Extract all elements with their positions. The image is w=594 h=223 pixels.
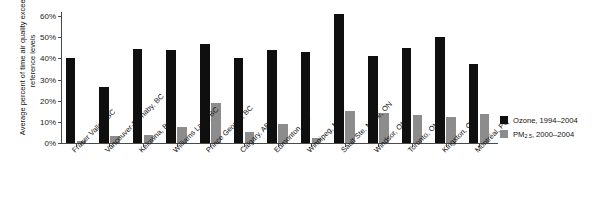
- legend-item[interactable]: PM2.5, 2000–2004: [500, 129, 578, 139]
- legend-label: Ozone, 1994–2004: [513, 116, 578, 125]
- bar-ozone: [66, 58, 76, 143]
- chart-legend: Ozone, 1994–2004PM2.5, 2000–2004: [500, 115, 578, 143]
- legend-swatch-icon: [500, 116, 508, 124]
- y-axis-tick-label: 20%: [10, 96, 56, 105]
- legend-item[interactable]: Ozone, 1994–2004: [500, 115, 578, 125]
- legend-label: PM2.5, 2000–2004: [513, 130, 574, 139]
- y-axis-tick-label: 0%: [10, 139, 56, 148]
- y-axis-tick-label: 30%: [10, 75, 56, 84]
- y-axis-tick-mark: [58, 143, 61, 144]
- bar-group: [267, 14, 288, 143]
- bar-ozone: [469, 64, 479, 143]
- bar-group: [66, 14, 87, 143]
- y-axis-tick-label: 40%: [10, 54, 56, 63]
- bar-chart: Average percent of time air quality exce…: [0, 0, 594, 223]
- y-axis-tick-label: 50%: [10, 33, 56, 42]
- y-axis-tick-label: 10%: [10, 117, 56, 126]
- legend-swatch-icon: [500, 130, 508, 138]
- y-axis-tick-label: 60%: [10, 12, 56, 21]
- bar-ozone: [234, 58, 244, 143]
